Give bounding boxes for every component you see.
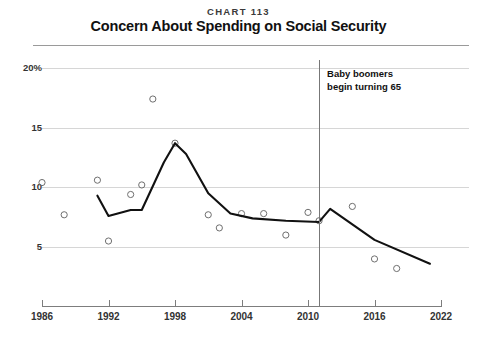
- data-point: [216, 225, 222, 231]
- baby-boomer-annotation: Baby boomers begin turning 65: [327, 68, 401, 94]
- data-point: [61, 212, 67, 218]
- chart-page: CHART 113 Concern About Spending on Soci…: [0, 0, 477, 345]
- data-point: [305, 209, 311, 215]
- data-point: [105, 238, 111, 244]
- data-point: [150, 96, 156, 102]
- plot-area: 20%15105 1986199219982004201020162022 Ba…: [0, 0, 477, 345]
- data-point: [349, 203, 355, 209]
- baby-boomer-marker-line: [319, 60, 320, 306]
- data-point: [283, 232, 289, 238]
- data-point: [205, 212, 211, 218]
- data-point: [261, 210, 267, 216]
- data-point: [128, 191, 134, 197]
- data-point: [371, 256, 377, 262]
- data-point: [139, 182, 145, 188]
- data-point: [394, 265, 400, 271]
- data-point: [94, 177, 100, 183]
- data-series-svg: [0, 0, 477, 345]
- trend-line: [97, 143, 430, 264]
- data-point: [39, 179, 45, 185]
- scatter-markers-group: [39, 96, 400, 272]
